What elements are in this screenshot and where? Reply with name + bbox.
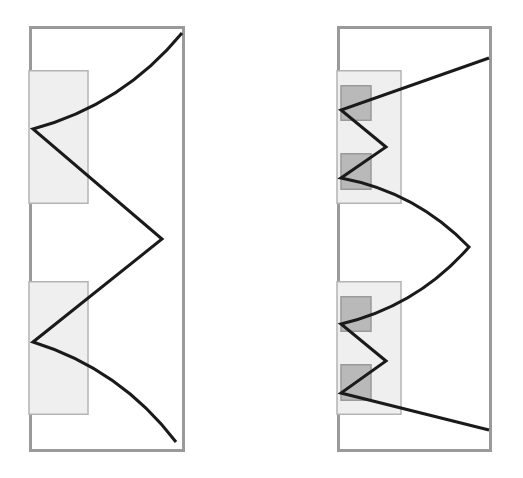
figure-root [0, 0, 523, 478]
right-panel [0, 0, 523, 478]
